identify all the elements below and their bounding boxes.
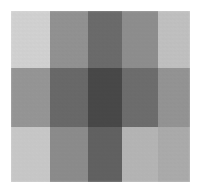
grid-cell-r1-c4 (122, 11, 158, 68)
grayscale-grid-canvas (11, 11, 190, 182)
grid-cell-r3-c5 (158, 127, 190, 182)
grid-cell-r2-c2 (50, 68, 88, 127)
grid-cell-r1-c3 (88, 11, 122, 68)
grid-cell-r2-c4 (122, 68, 158, 127)
grid-cell-r3-c2 (50, 127, 88, 182)
grid-cell-r1-c1 (11, 11, 50, 68)
grid-cell-r3-c1 (11, 127, 50, 182)
figure-root (0, 0, 202, 194)
grid-cell-r3-c4 (122, 127, 158, 182)
grid-cell-r2-c1 (11, 68, 50, 127)
grid-cell-r3-c3 (88, 127, 122, 182)
grid-cell-r1-c2 (50, 11, 88, 68)
grid-cell-r2-c3 (88, 68, 122, 127)
grid-cell-r1-c5 (158, 11, 190, 68)
grid-cell-r2-c5 (158, 68, 190, 127)
